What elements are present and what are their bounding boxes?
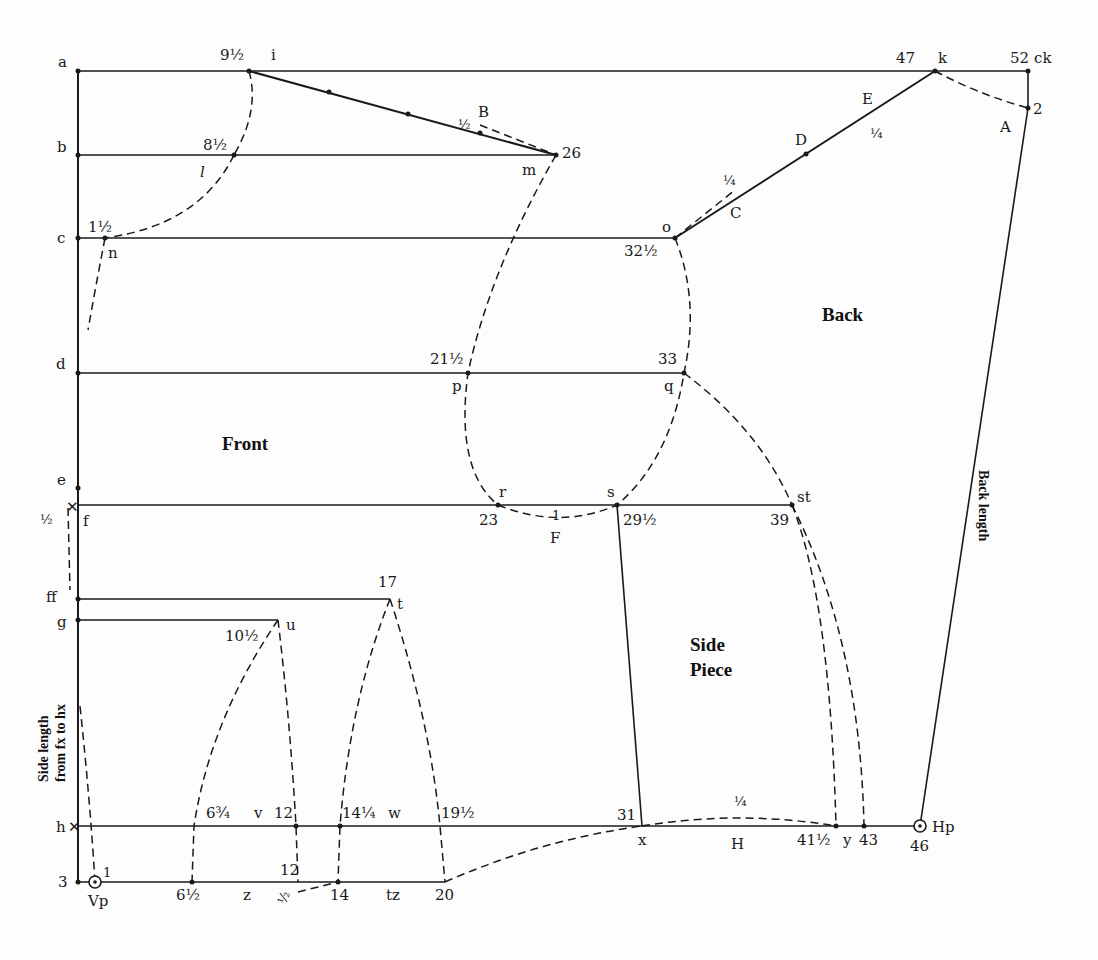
side-piece-title-1: Side bbox=[690, 634, 725, 655]
Vp-value: 1 bbox=[103, 865, 111, 880]
H-name: H bbox=[731, 835, 744, 853]
tz-name: tz bbox=[386, 886, 400, 904]
hip-curve-H bbox=[642, 818, 836, 826]
shoulder-B-dash bbox=[480, 125, 556, 155]
dart-2-right bbox=[390, 599, 445, 882]
A-value: 2 bbox=[1033, 100, 1043, 118]
p-name: p bbox=[452, 377, 462, 395]
axis-b: b bbox=[57, 138, 67, 156]
B-name: B bbox=[478, 103, 489, 121]
side-piece-title-2: Piece bbox=[690, 659, 732, 680]
B-value: ½ bbox=[458, 117, 471, 132]
side-length-label-2: from fx to hx bbox=[53, 704, 68, 782]
y-value: 41½ bbox=[797, 831, 831, 849]
H-value: ¼ bbox=[734, 794, 747, 809]
u-value: 10½ bbox=[225, 627, 259, 645]
back-title: Back bbox=[822, 304, 864, 325]
i-name: i bbox=[271, 46, 276, 64]
side-length-label-1: Side length bbox=[36, 715, 51, 782]
D-name: D bbox=[795, 131, 807, 149]
h-19-value: 19½ bbox=[441, 804, 475, 822]
w-value: 14¼ bbox=[342, 804, 376, 822]
E-value: ¼ bbox=[870, 126, 883, 141]
r-name: r bbox=[499, 483, 507, 501]
axis-a: a bbox=[58, 53, 67, 71]
shoulder-C-dash bbox=[675, 190, 735, 238]
dart-2-left bbox=[338, 599, 390, 882]
tz-right: 20 bbox=[435, 886, 454, 904]
z-name: z bbox=[243, 886, 251, 904]
o-value: 32½ bbox=[624, 242, 658, 260]
n-name: n bbox=[108, 244, 118, 262]
k-name: k bbox=[938, 49, 948, 67]
p-value: 21½ bbox=[430, 350, 464, 368]
v-left: 6¾ bbox=[206, 804, 231, 822]
dart-1-left bbox=[192, 620, 278, 882]
s-value: 29½ bbox=[623, 511, 657, 529]
front-title: Front bbox=[222, 433, 269, 454]
Vp-name: Vp bbox=[87, 892, 108, 910]
m-name: m bbox=[522, 161, 536, 179]
u-name: u bbox=[286, 616, 296, 634]
neck-curve-lower bbox=[105, 155, 234, 238]
side-seam-line bbox=[617, 505, 642, 826]
back-length-line bbox=[920, 108, 1028, 826]
w-name: w bbox=[388, 804, 401, 822]
C-value: ¼ bbox=[723, 173, 736, 188]
neck-curve-upper bbox=[234, 71, 252, 155]
dart-1-right bbox=[278, 620, 298, 882]
bottom-curve bbox=[445, 826, 642, 882]
s-name: s bbox=[607, 483, 615, 501]
axis-g: g bbox=[57, 613, 67, 631]
axis-ff: ff bbox=[46, 588, 58, 606]
Hp-value: 46 bbox=[910, 837, 929, 855]
axis-h: h bbox=[56, 818, 66, 836]
front-shoulder-line bbox=[249, 71, 556, 155]
l-name: l bbox=[200, 163, 205, 181]
f-half: ½ bbox=[40, 512, 53, 527]
neck-drop-curve bbox=[88, 238, 105, 330]
k-value: 47 bbox=[896, 49, 915, 67]
axis-d: d bbox=[56, 355, 66, 373]
svg-text:✕: ✕ bbox=[68, 818, 81, 836]
back-neck-curve bbox=[935, 71, 1028, 108]
m-value: 26 bbox=[562, 144, 581, 162]
v-name: v bbox=[253, 804, 263, 822]
axis-3: 3 bbox=[58, 873, 68, 891]
axis-f: f bbox=[83, 512, 90, 530]
back-length-label: Back length bbox=[976, 470, 991, 541]
F-value: 1 bbox=[552, 508, 560, 523]
q-value: 33 bbox=[658, 350, 677, 368]
Hp-name: Hp bbox=[932, 818, 955, 836]
back-armhole-curve bbox=[617, 238, 690, 505]
l-value: 8½ bbox=[203, 136, 227, 154]
q-name: q bbox=[664, 377, 674, 395]
tz-left: 14 bbox=[330, 886, 349, 904]
r-value: 23 bbox=[479, 511, 498, 529]
o-name: o bbox=[662, 218, 671, 236]
A-name: A bbox=[999, 118, 1011, 136]
front-edge-dash bbox=[68, 508, 70, 590]
y-name: y bbox=[842, 831, 852, 849]
t-value: 17 bbox=[378, 573, 397, 591]
st-value: 39 bbox=[770, 511, 789, 529]
points bbox=[76, 69, 1031, 889]
st-name: st bbox=[797, 488, 811, 506]
n-value: 1½ bbox=[88, 218, 112, 236]
v-value: 12 bbox=[274, 804, 293, 822]
x-value: 31 bbox=[617, 806, 636, 824]
z-top: 12 bbox=[280, 861, 299, 879]
axis-e: e bbox=[57, 471, 66, 489]
pattern-draft-diagram: ✕ ✕ a b c d e f ff g h 3 ½ 9½ i 8½ l 1½ … bbox=[0, 0, 1098, 960]
ck-value: 52 bbox=[1010, 49, 1029, 67]
E-name: E bbox=[862, 90, 873, 108]
side-back-curve bbox=[684, 373, 792, 505]
front-armhole-curve bbox=[465, 155, 556, 505]
F-name: F bbox=[550, 529, 560, 547]
z-half: ½ bbox=[274, 889, 292, 906]
front-edge-lower-dash bbox=[80, 706, 95, 882]
i-value: 9½ bbox=[220, 46, 244, 64]
z-left: 6½ bbox=[176, 886, 200, 904]
ck-name: ck bbox=[1034, 49, 1052, 67]
side-dash-2 bbox=[792, 505, 864, 826]
